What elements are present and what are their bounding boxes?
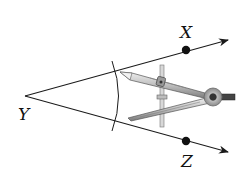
label-z: Z — [180, 151, 194, 171]
point-z — [182, 137, 190, 145]
point-x — [182, 46, 190, 54]
label-x: X — [178, 22, 193, 42]
label-y: Y — [18, 104, 31, 124]
compass-icon — [120, 65, 235, 127]
angle-construction-diagram: X Z Y — [0, 0, 243, 172]
diagram-svg: X Z Y — [0, 0, 243, 172]
ray-yx — [25, 40, 228, 96]
